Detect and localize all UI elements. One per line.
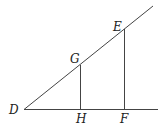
label-d: D	[8, 103, 19, 117]
label-h: H	[75, 112, 87, 126]
label-f: F	[119, 112, 129, 126]
geometry-diagram: D G H E F	[0, 0, 168, 130]
diagram-canvas: D G H E F	[0, 0, 168, 130]
label-e: E	[112, 20, 122, 34]
label-g: G	[70, 52, 80, 66]
ray-de	[24, 6, 153, 110]
